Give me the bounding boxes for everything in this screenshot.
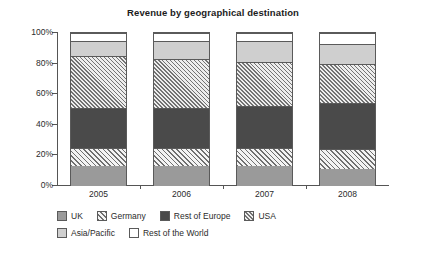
- bar-segment-asia-pacific[interactable]: [320, 44, 375, 64]
- bar-segment-rest-of-the-world[interactable]: [154, 33, 209, 41]
- legend-label: Asia/Pacific: [71, 228, 115, 238]
- bar-group: [319, 32, 376, 185]
- bar-segment-usa[interactable]: [320, 64, 375, 104]
- bar-group: [153, 32, 210, 185]
- legend-label: Rest of Europe: [174, 211, 231, 221]
- bar-segment-rest-of-europe[interactable]: [154, 108, 209, 148]
- y-axis-tick-label: 100%: [31, 27, 53, 37]
- bar-segment-germany[interactable]: [154, 148, 209, 166]
- chart-title: Revenue by geographical destination: [0, 7, 426, 18]
- y-axis-line: [57, 32, 58, 185]
- legend-swatch-icon: [57, 228, 67, 238]
- y-axis-tick-label: 40%: [36, 119, 53, 129]
- bar-segment-usa[interactable]: [154, 59, 209, 108]
- bar-segment-asia-pacific[interactable]: [154, 41, 209, 59]
- bar-segment-germany[interactable]: [71, 148, 126, 166]
- bar-group: [70, 32, 127, 185]
- bar-group: [236, 32, 293, 185]
- chart-container: Revenue by geographical destination 0%20…: [0, 0, 426, 259]
- y-axis-tick-label: 0%: [41, 180, 53, 190]
- bar-segment-rest-of-europe[interactable]: [237, 106, 292, 147]
- bar-segment-usa[interactable]: [71, 56, 126, 108]
- legend-swatch-icon: [160, 211, 170, 221]
- bar-segment-rest-of-the-world[interactable]: [71, 33, 126, 41]
- legend-swatch-icon: [97, 211, 107, 221]
- stacked-bar[interactable]: [70, 32, 127, 185]
- legend-item-rest-of-the-world[interactable]: Rest of the World: [129, 228, 209, 238]
- bar-segment-uk[interactable]: [237, 166, 292, 186]
- legend-item-germany[interactable]: Germany: [97, 211, 146, 221]
- bar-segment-asia-pacific[interactable]: [71, 41, 126, 56]
- stacked-bar[interactable]: [153, 32, 210, 185]
- legend-item-asia-pacific[interactable]: Asia/Pacific: [57, 228, 115, 238]
- x-axis-label: 2007: [235, 189, 295, 199]
- bar-segment-rest-of-europe[interactable]: [71, 108, 126, 148]
- x-axis-tick-mark: [223, 185, 224, 189]
- legend-row-secondary: Asia/PacificRest of the World: [57, 224, 417, 241]
- y-axis-tick-label: 80%: [36, 58, 53, 68]
- legend-item-uk[interactable]: UK: [57, 211, 83, 221]
- legend-label: USA: [258, 211, 275, 221]
- bar-segment-uk[interactable]: [154, 166, 209, 186]
- bar-segment-rest-of-the-world[interactable]: [237, 33, 292, 41]
- legend-label: Rest of the World: [143, 228, 209, 238]
- legend-label: UK: [71, 211, 83, 221]
- bar-segment-germany[interactable]: [237, 148, 292, 166]
- legend-swatch-icon: [244, 211, 254, 221]
- bar-segment-usa[interactable]: [237, 62, 292, 106]
- x-axis-label: 2008: [318, 189, 378, 199]
- x-axis-label: 2005: [69, 189, 129, 199]
- y-axis-tick-label: 20%: [36, 149, 53, 159]
- legend-swatch-icon: [57, 211, 67, 221]
- legend-item-usa[interactable]: USA: [244, 211, 275, 221]
- bar-segment-asia-pacific[interactable]: [237, 41, 292, 62]
- bar-segment-uk[interactable]: [71, 166, 126, 186]
- bar-segment-rest-of-europe[interactable]: [320, 103, 375, 149]
- bar-segment-uk[interactable]: [320, 169, 375, 186]
- x-axis-label: 2006: [152, 189, 212, 199]
- stacked-bar[interactable]: [236, 32, 293, 185]
- legend-row-primary: UKGermanyRest of EuropeUSA: [57, 207, 417, 224]
- legend-swatch-icon: [129, 228, 139, 238]
- legend-item-rest-of-europe[interactable]: Rest of Europe: [160, 211, 231, 221]
- bar-segment-rest-of-the-world[interactable]: [320, 33, 375, 44]
- chart-legend: UKGermanyRest of EuropeUSA Asia/PacificR…: [57, 207, 417, 241]
- bar-segment-germany[interactable]: [320, 149, 375, 169]
- x-axis-tick-mark: [140, 185, 141, 189]
- legend-label: Germany: [111, 211, 146, 221]
- x-axis-tick-mark: [306, 185, 307, 189]
- y-axis-tick-label: 60%: [36, 88, 53, 98]
- stacked-bar[interactable]: [319, 32, 376, 185]
- plot-area: 0%20%40%60%80%100% 2005200620072008: [57, 32, 389, 185]
